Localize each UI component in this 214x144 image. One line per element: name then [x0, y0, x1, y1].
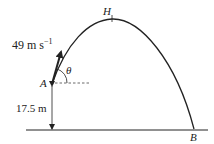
angle-label: θ: [66, 64, 72, 76]
point-b-label: B: [190, 131, 197, 143]
height-label: 17.5 m: [16, 102, 47, 114]
velocity-label: 49 m s−1: [12, 37, 53, 52]
point-h-label: H: [102, 5, 112, 17]
point-a-label: A: [39, 77, 47, 89]
trajectory-curve: [52, 19, 194, 129]
velocity-arrow: [52, 52, 61, 84]
diagram-svg: 49 m s−1 A H B θ 17.5 m: [0, 0, 214, 144]
projectile-diagram: 49 m s−1 A H B θ 17.5 m: [0, 0, 214, 144]
